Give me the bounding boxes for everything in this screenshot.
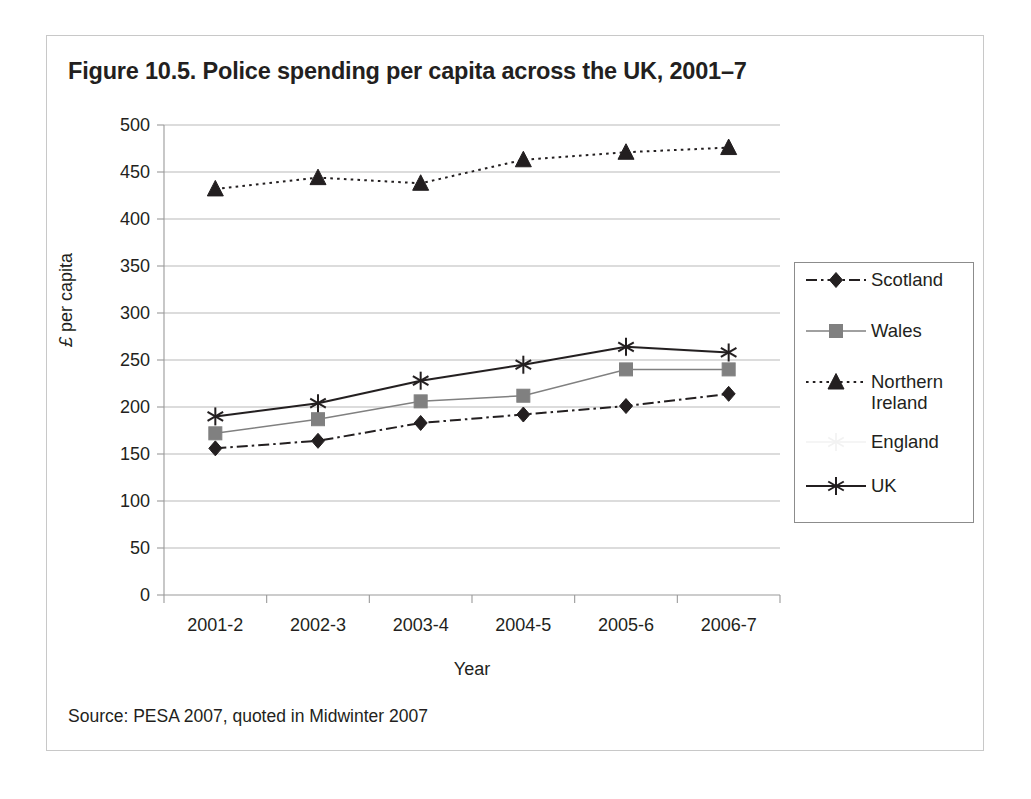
y-axis-ticks (157, 125, 164, 595)
data-point-square (312, 413, 325, 426)
data-point-diamond (312, 433, 325, 448)
y-axis-tick-label: 500 (80, 115, 150, 136)
series-wales (209, 363, 735, 440)
data-point-diamond (830, 273, 843, 288)
legend-swatch-diamond-icon (805, 270, 867, 290)
data-point-square (517, 389, 530, 402)
figure-page: Figure 10.5. Police spending per capita … (0, 0, 1031, 799)
grid-lines (164, 125, 780, 548)
series-england (208, 339, 737, 427)
y-axis-tick-label: 0 (80, 585, 150, 606)
series-line (215, 347, 728, 417)
data-point-diamond (414, 415, 427, 430)
series-scotland (209, 386, 735, 456)
data-point-triangle (207, 180, 223, 196)
data-point-triangle (721, 139, 737, 155)
x-axis-tick-label: 2001-2 (187, 615, 243, 636)
legend-item-uk[interactable]: UK (795, 475, 975, 496)
data-point-triangle (310, 169, 326, 185)
legend-item-wales[interactable]: Wales (795, 320, 975, 341)
series-northern-ireland (207, 139, 736, 196)
x-axis-tick-label: 2002-3 (290, 615, 346, 636)
legend-swatch-star-icon (805, 432, 867, 452)
data-point-square (209, 427, 222, 440)
x-axis-tick-label: 2004-5 (495, 615, 551, 636)
legend-item-england[interactable]: England (795, 431, 975, 452)
legend-label: UK (871, 475, 897, 496)
series-line (215, 394, 728, 449)
data-point-triangle (618, 144, 634, 160)
legend-item-scotland[interactable]: Scotland (795, 269, 975, 290)
y-axis-tick-label: 250 (80, 350, 150, 371)
data-point-diamond (722, 386, 735, 401)
y-axis-tick-label: 150 (80, 444, 150, 465)
series-line (215, 369, 728, 433)
legend-swatch-asterisk-icon (805, 476, 867, 496)
series-uk (208, 338, 737, 426)
data-point-diamond (620, 399, 633, 414)
legend-label: Wales (871, 320, 922, 341)
y-axis-tick-label: 450 (80, 162, 150, 183)
data-series-layer (207, 139, 736, 456)
data-point-square (830, 325, 843, 338)
data-point-square (414, 395, 427, 408)
x-axis-ticks (164, 595, 780, 603)
x-axis-tick-label: 2006-7 (701, 615, 757, 636)
y-axis-tick-label: 350 (80, 256, 150, 277)
legend-label: Northern Ireland (871, 371, 943, 413)
x-axis-tick-label: 2003-4 (393, 615, 449, 636)
y-axis-tick-label: 300 (80, 303, 150, 324)
y-axis-tick-label: 50 (80, 538, 150, 559)
x-axis-tick-label: 2005-6 (598, 615, 654, 636)
y-axis-tick-label: 100 (80, 491, 150, 512)
legend-swatch-square-icon (805, 321, 867, 341)
data-point-square (722, 363, 735, 376)
y-axis-tick-label: 400 (80, 209, 150, 230)
data-point-triangle (515, 151, 531, 167)
series-line (215, 148, 728, 189)
data-point-square (620, 363, 633, 376)
data-point-diamond (517, 407, 530, 422)
source-note: Source: PESA 2007, quoted in Midwinter 2… (68, 706, 428, 727)
y-axis-tick-label: 200 (80, 397, 150, 418)
chart-legend[interactable]: ScotlandWalesNorthern IrelandEnglandUK (794, 262, 974, 523)
legend-label: England (871, 431, 939, 452)
legend-swatch-triangle-icon (805, 372, 867, 392)
legend-label: Scotland (871, 269, 943, 290)
legend-item-northern-ireland[interactable]: Northern Ireland (795, 371, 975, 413)
